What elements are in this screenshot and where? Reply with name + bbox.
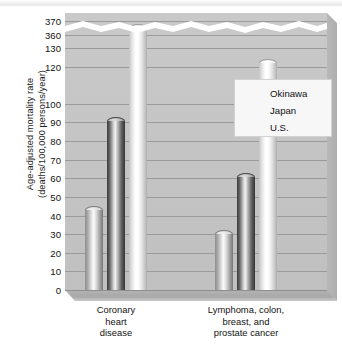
category-label-line: Lymphoma, colon, <box>166 304 326 316</box>
gridline-120: 120 <box>65 67 327 68</box>
y-tick-label-360: 360 <box>45 30 61 41</box>
category-label-cancer: Lymphoma, colon,breast, andprostate canc… <box>166 304 326 339</box>
legend-label-japan: Japan <box>270 105 296 116</box>
legend-label-us: U.S. <box>270 122 289 133</box>
y-tick-label-10: 10 <box>50 266 61 277</box>
bar-okinawa-group2 <box>215 230 233 290</box>
legend: Okinawa Japan U.S. <box>234 79 332 137</box>
gridline-370: 370 <box>65 21 327 22</box>
gridline-50: 50 <box>65 197 327 198</box>
legend-swatch-okinawa-icon <box>241 87 264 99</box>
y-tick-label-370: 370 <box>45 16 61 27</box>
category-label-line: prostate cancer <box>166 327 326 339</box>
top-edge-band <box>0 0 342 7</box>
y-tick-label-100: 100 <box>45 98 61 109</box>
y-tick-label-70: 70 <box>50 154 61 165</box>
y-tick-label-90: 90 <box>50 117 61 128</box>
bar-okinawa-group1 <box>85 206 103 290</box>
legend-item-okinawa: Okinawa <box>241 85 331 101</box>
gridline-80: 80 <box>65 141 327 142</box>
y-tick-label-30: 30 <box>50 229 61 240</box>
gridline-130: 130 <box>65 48 327 49</box>
axis-break-zigzag <box>65 13 327 35</box>
plot-right-wall <box>327 13 337 301</box>
gridline-70: 70 <box>65 160 327 161</box>
legend-swatch-japan-icon <box>241 104 264 116</box>
gridline-30: 30 <box>65 234 327 235</box>
gridline-60: 60 <box>65 178 327 179</box>
y-tick-label-80: 80 <box>50 136 61 147</box>
y-tick-label-0: 0 <box>56 285 61 296</box>
legend-item-japan: Japan <box>241 102 331 118</box>
legend-label-okinawa: Okinawa <box>270 88 307 99</box>
y-tick-label-130: 130 <box>45 43 61 54</box>
category-label-line: breast, and <box>166 316 326 328</box>
plot-floor <box>65 290 337 301</box>
bar-us-group1 <box>129 24 147 290</box>
figure-root: Age-adjusted mortality rate (deaths/100,… <box>0 0 342 354</box>
gridline-40: 40 <box>65 216 327 217</box>
gridline-360: 360 <box>65 35 327 36</box>
gridline-10: 10 <box>65 271 327 272</box>
y-tick-label-60: 60 <box>50 173 61 184</box>
plot-area: 3703601301201009080706050403020100 Okina… <box>65 13 327 290</box>
y-axis-title-line-1: Age-adjusted mortality rate <box>25 78 37 191</box>
y-tick-label-40: 40 <box>50 210 61 221</box>
legend-swatch-us-icon <box>241 121 264 133</box>
gridline-20: 20 <box>65 253 327 254</box>
y-tick-label-50: 50 <box>50 191 61 202</box>
legend-item-us: U.S. <box>241 119 331 135</box>
y-tick-label-20: 20 <box>50 247 61 258</box>
y-axis-title-line-2: (deaths/100,000 persons/year) <box>37 70 49 198</box>
gridline-0: 0 <box>65 290 327 291</box>
bar-japan-group1 <box>107 117 125 290</box>
bar-japan-group2 <box>237 173 255 290</box>
y-tick-label-120: 120 <box>45 61 61 72</box>
